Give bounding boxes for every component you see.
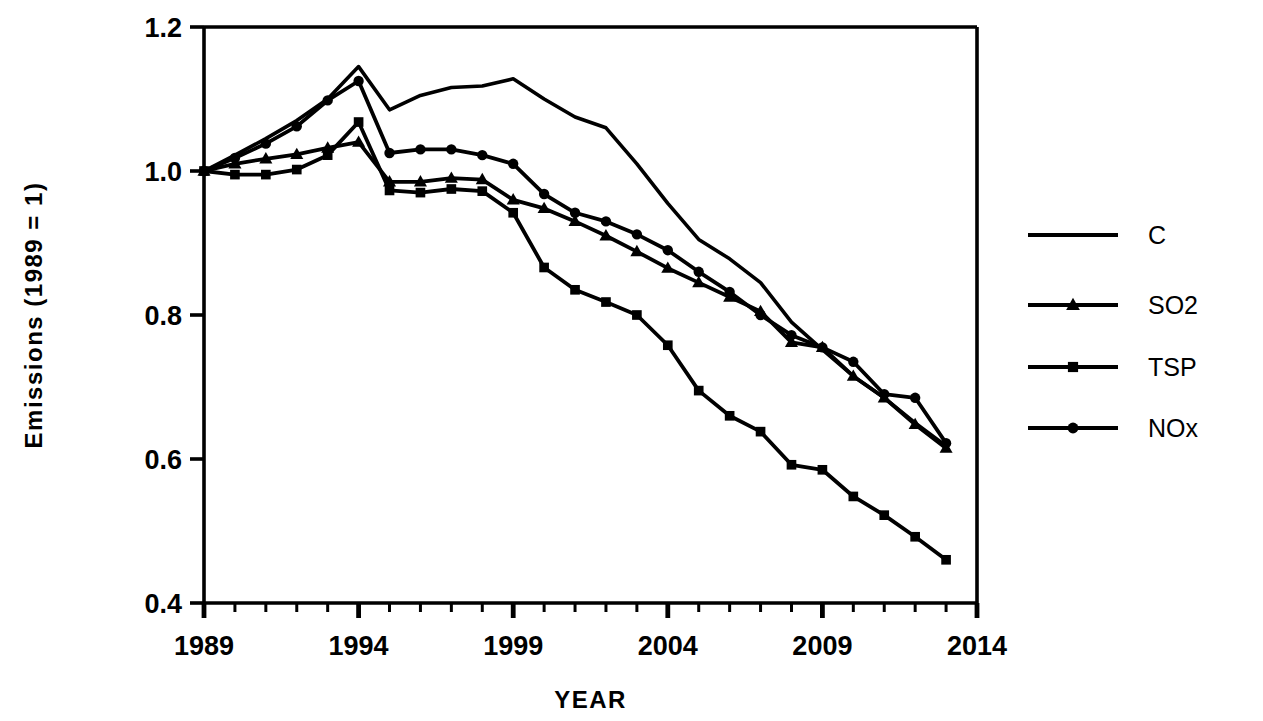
x-tick-label: 2009: [792, 631, 852, 661]
series-line-nox: [204, 81, 946, 443]
data-point-circle-icon: [694, 267, 704, 277]
emissions-chart-figure: 0.40.60.81.01.2198919941999200420092014 …: [0, 0, 1263, 721]
legend[interactable]: CSO2TSPNOx: [1028, 221, 1199, 442]
data-point-square-icon: [725, 411, 735, 421]
data-point-circle-icon: [477, 150, 487, 160]
data-point-square-icon: [416, 188, 426, 198]
x-tick-label: 1994: [329, 631, 389, 661]
x-axis-title: YEAR: [554, 686, 627, 713]
data-point-square-icon: [447, 184, 457, 194]
data-point-square-icon: [632, 310, 642, 320]
legend-item-c[interactable]: C: [1028, 221, 1166, 249]
data-point-square-icon: [539, 263, 549, 273]
data-point-circle-icon: [663, 245, 673, 255]
legend-item-nox[interactable]: NOx: [1028, 414, 1199, 442]
data-point-square-icon: [261, 170, 271, 180]
data-point-circle-icon: [632, 229, 642, 239]
data-point-square-icon: [787, 460, 797, 470]
data-point-square-icon: [910, 532, 920, 542]
legend-marker-circle-icon: [1068, 423, 1079, 434]
data-point-circle-icon: [322, 95, 332, 105]
data-point-circle-icon: [601, 216, 611, 226]
data-point-square-icon: [663, 340, 673, 350]
data-point-circle-icon: [879, 389, 889, 399]
data-point-circle-icon: [199, 166, 209, 176]
data-point-circle-icon: [446, 144, 456, 154]
data-point-circle-icon: [910, 393, 920, 403]
data-point-square-icon: [292, 165, 302, 175]
x-tick-label: 2004: [638, 631, 698, 661]
y-tick-label: 0.8: [144, 301, 182, 331]
data-point-circle-icon: [261, 138, 271, 148]
data-point-square-icon: [354, 117, 364, 127]
legend-label-c: C: [1148, 221, 1166, 249]
data-point-square-icon: [477, 186, 487, 196]
data-series: [197, 67, 952, 565]
data-point-circle-icon: [292, 121, 302, 131]
data-point-square-icon: [818, 465, 828, 475]
y-tick-label: 0.4: [144, 589, 182, 619]
data-point-square-icon: [694, 386, 704, 396]
data-point-circle-icon: [817, 342, 827, 352]
data-point-circle-icon: [786, 330, 796, 340]
chart-canvas: 0.40.60.81.01.2198919941999200420092014 …: [0, 0, 1263, 721]
x-tick-label: 1999: [483, 631, 543, 661]
legend-label-nox: NOx: [1148, 414, 1199, 442]
data-point-square-icon: [323, 150, 333, 160]
data-point-circle-icon: [570, 208, 580, 218]
data-point-circle-icon: [415, 144, 425, 154]
legend-item-tsp[interactable]: TSP: [1028, 353, 1197, 381]
data-point-circle-icon: [353, 76, 363, 86]
data-point-square-icon: [601, 297, 611, 307]
data-point-square-icon: [230, 170, 240, 180]
legend-label-so2: SO2: [1148, 291, 1198, 319]
series-tsp: [199, 117, 951, 564]
data-point-square-icon: [385, 186, 395, 196]
data-point-circle-icon: [755, 310, 765, 320]
data-point-square-icon: [570, 285, 580, 295]
y-tick-label: 1.0: [144, 157, 182, 187]
y-axis-title: Emissions (1989 = 1): [20, 182, 47, 449]
data-point-circle-icon: [508, 159, 518, 169]
data-point-square-icon: [879, 510, 889, 520]
legend-item-so2[interactable]: SO2: [1028, 291, 1198, 319]
data-point-square-icon: [508, 208, 518, 218]
data-point-circle-icon: [539, 189, 549, 199]
data-point-circle-icon: [848, 357, 858, 367]
data-point-square-icon: [756, 427, 766, 437]
data-point-square-icon: [848, 492, 858, 502]
x-tick-label: 1989: [174, 631, 234, 661]
tick-labels: 0.40.60.81.01.2198919941999200420092014: [144, 13, 1007, 661]
legend-marker-square-icon: [1068, 362, 1078, 372]
x-tick-label: 2014: [947, 631, 1007, 661]
data-point-circle-icon: [230, 153, 240, 163]
series-line-c: [204, 67, 946, 446]
data-point-circle-icon: [941, 438, 951, 448]
series-line-tsp: [204, 122, 946, 560]
y-tick-label: 0.6: [144, 445, 182, 475]
y-tick-label: 1.2: [144, 13, 182, 43]
data-point-square-icon: [941, 555, 951, 565]
series-nox: [199, 76, 951, 449]
data-point-circle-icon: [724, 287, 734, 297]
data-point-circle-icon: [384, 148, 394, 158]
legend-label-tsp: TSP: [1148, 353, 1197, 381]
series-line-so2: [204, 142, 946, 448]
series-c: [204, 67, 946, 446]
